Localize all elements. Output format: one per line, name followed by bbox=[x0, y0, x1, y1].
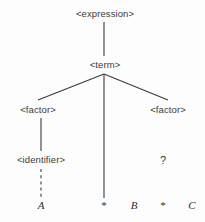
terminal-star-1: * bbox=[101, 200, 107, 211]
node-identifier: <identifier> bbox=[17, 155, 65, 165]
terminal-b: B bbox=[131, 200, 138, 211]
node-expression: <expression> bbox=[76, 9, 134, 19]
parse-tree-diagram: <expression> <term> <factor> <factor> <i… bbox=[0, 0, 205, 222]
edge-term-factor-right bbox=[104, 74, 168, 100]
node-factor-right: <factor> bbox=[150, 105, 186, 115]
terminal-star-2: * bbox=[160, 200, 166, 211]
node-unknown-placeholder: ? bbox=[160, 155, 166, 166]
terminal-c: C bbox=[188, 200, 195, 211]
terminal-a: A bbox=[38, 200, 45, 211]
edge-term-factor-left bbox=[38, 74, 104, 100]
node-factor-left: <factor> bbox=[20, 105, 56, 115]
node-term: <term> bbox=[90, 60, 121, 70]
